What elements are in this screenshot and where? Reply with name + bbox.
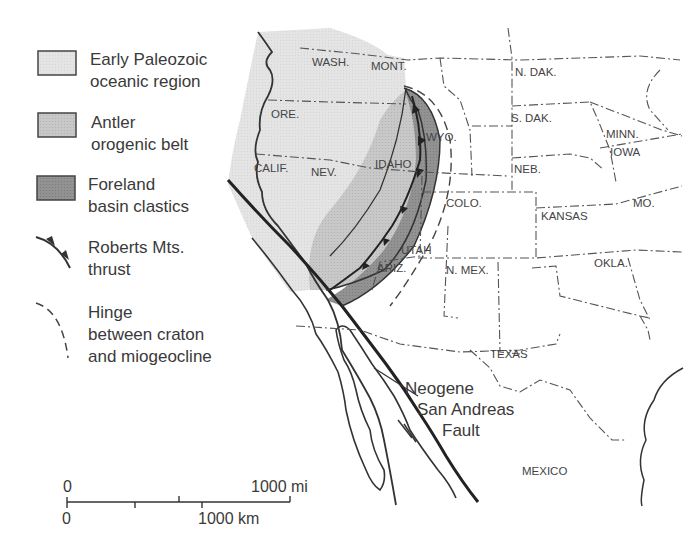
svg-text:IOWA: IOWA: [610, 146, 641, 158]
svg-text:CALIF.: CALIF.: [254, 162, 289, 174]
svg-text:MEXICO: MEXICO: [522, 465, 567, 477]
scale-bar: [67, 496, 290, 508]
legend-hinge: Hinge between craton and miogeocline: [88, 302, 212, 368]
svg-text:ARIZ.: ARIZ.: [377, 262, 406, 274]
svg-text:S. DAK.: S. DAK.: [511, 112, 552, 124]
svg-text:WYO.: WYO.: [426, 131, 457, 143]
scale-km-label: 1000 km: [198, 510, 259, 528]
svg-text:N. DAK.: N. DAK.: [515, 66, 557, 78]
svg-text:TEXAS: TEXAS: [490, 348, 528, 360]
svg-text:NEB.: NEB.: [514, 163, 541, 175]
svg-text:WASH.: WASH.: [312, 56, 349, 68]
legend-foreland: Foreland basin clastics: [88, 174, 189, 218]
legend-swatches: [36, 51, 76, 358]
svg-text:ORE.: ORE.: [271, 108, 299, 120]
svg-text:UTAH: UTAH: [401, 244, 431, 256]
svg-text:MO.: MO.: [633, 197, 655, 209]
legend-antler: Antler orogenic belt: [91, 112, 188, 156]
scale-km-zero: 0: [62, 510, 71, 528]
san-andreas-fault-label: Neogene San Andreas Fault: [405, 378, 545, 441]
svg-text:MINN.: MINN.: [606, 128, 639, 140]
svg-text:IDAHO: IDAHO: [375, 158, 411, 170]
scale-mi-label: 1000 mi: [251, 478, 308, 496]
scale-mi-zero: 0: [63, 478, 72, 496]
legend-early-paleozoic: Early Paleozoic oceanic region: [90, 49, 207, 93]
svg-text:COLO.: COLO.: [446, 197, 482, 209]
svg-text:N. MEX.: N. MEX.: [446, 264, 489, 276]
svg-text:MONT.: MONT.: [371, 60, 407, 72]
svg-text:OKLA.: OKLA.: [594, 257, 628, 269]
svg-text:KANSAS: KANSAS: [541, 210, 588, 222]
legend-roberts-thrust: Roberts Mts. thrust: [88, 237, 184, 281]
svg-text:NEV.: NEV.: [311, 166, 337, 178]
